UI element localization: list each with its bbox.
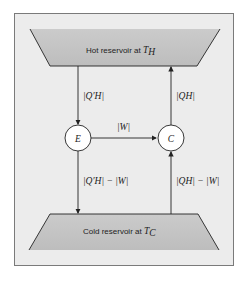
label-refrigerator-to-hot: |QH| (176, 91, 195, 101)
svg-text:E: E (74, 134, 81, 144)
cold-reservoir: Cold reservoir at TC (29, 214, 219, 250)
label-hot-to-engine: |Q′H| (83, 91, 104, 101)
carnot-engine-diagram: Hot reservoir at TH Cold reservoir at TC… (0, 0, 246, 283)
label-cold-to-refrigerator: |QH| − |W| (176, 176, 219, 186)
label-engine-to-cold: |Q′H| − |W| (83, 176, 128, 186)
hot-reservoir: Hot reservoir at TH (30, 29, 220, 66)
engine-node: E (65, 125, 91, 151)
svg-text:C: C (168, 134, 175, 144)
label-work: |W| (117, 122, 130, 132)
refrigerator-node: C (158, 125, 184, 151)
